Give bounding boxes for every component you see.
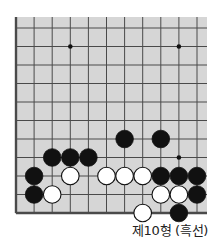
black-stone [116,130,134,148]
white-stone [62,167,80,185]
white-stone [152,186,170,204]
black-stone [80,149,98,167]
black-stone [188,186,206,204]
go-board [0,0,224,248]
black-stone [152,167,170,185]
diagram-caption: 제10형 (흑선) [128,220,208,239]
star-point [177,44,182,49]
black-stone [25,186,43,204]
white-stone [98,167,116,185]
black-stone [188,167,206,185]
white-stone [134,167,152,185]
white-stone [170,186,188,204]
black-stone [152,130,170,148]
white-stone [116,167,134,185]
star-point [177,155,182,160]
black-stone [43,149,61,167]
black-stone [170,167,188,185]
black-stone [25,167,43,185]
white-stone [43,186,61,204]
star-point [68,44,73,49]
black-stone [62,149,80,167]
